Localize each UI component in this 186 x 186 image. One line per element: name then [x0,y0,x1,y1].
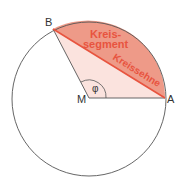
segment-label-line2: segment [83,38,129,50]
point-label-m: M [77,93,86,105]
angle-label: φ [92,83,99,94]
point-label-a: A [167,93,175,105]
point-label-b: B [45,16,52,28]
circle-segment-diagram: φ B M A Kreis- segment Kreissehne [0,0,186,186]
